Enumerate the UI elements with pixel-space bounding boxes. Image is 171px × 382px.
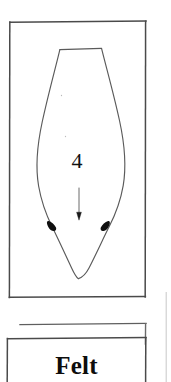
- speck-upper: [61, 95, 62, 96]
- caption-title: Felt: [7, 352, 146, 380]
- frame-bottom-edge: [9, 296, 145, 297]
- speck-lower: [65, 136, 66, 137]
- page-canvas: 4 Felt: [0, 0, 171, 382]
- pattern-piece-number: 4: [62, 149, 92, 173]
- pattern-sheet-illustration: [0, 0, 171, 382]
